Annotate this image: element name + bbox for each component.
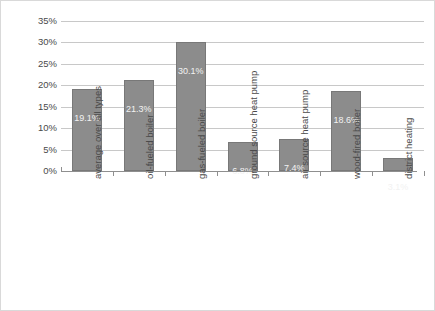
x-axis-tick: [320, 171, 321, 176]
x-axis-tick: [268, 171, 269, 176]
bar-value-label: 30.1%: [165, 66, 217, 76]
bar-value-label: 19.1%: [61, 113, 113, 123]
x-axis-category-label: district heating: [403, 118, 415, 179]
y-axis-tick-labels: 0%5%10%15%20%25%30%35%: [23, 1, 57, 311]
y-axis-tick-label: 35%: [25, 16, 57, 26]
bar-value-label: 18.6%: [320, 115, 372, 125]
y-axis-tick-label: 15%: [25, 102, 57, 112]
y-axis-tick-label: 0%: [25, 166, 57, 176]
x-axis-category-label: oil-fueled boiler: [144, 115, 156, 179]
x-axis-tick: [424, 171, 425, 176]
x-axis-tick: [217, 171, 218, 176]
bar-value-label: 21.3%: [113, 104, 165, 114]
y-axis-tick-label: 30%: [25, 37, 57, 47]
gridline: [61, 85, 424, 86]
y-axis-tick-label: 10%: [25, 123, 57, 133]
plot-area: 19.1%21.3%30.1%6.8%7.4%18.6%3.1%: [61, 21, 424, 171]
x-axis-category-label: wood-fired boiler: [351, 109, 363, 179]
x-axis-tick: [165, 171, 166, 176]
y-axis-tick-label: 5%: [25, 145, 57, 155]
bar-value-label: 3.1%: [372, 182, 424, 192]
gridline: [61, 128, 424, 129]
x-axis-category-label: gas-fueled boiler: [196, 109, 208, 179]
x-axis-category-label: air source heat pump: [299, 90, 311, 179]
gridline: [61, 64, 424, 65]
x-axis-line: [61, 171, 417, 172]
x-axis-category-label: ground source heat pump: [248, 71, 260, 179]
gridline: [61, 42, 424, 43]
x-axis-category-label: average over all types: [92, 86, 104, 179]
x-axis-tick: [372, 171, 373, 176]
x-axis-tick: [113, 171, 114, 176]
y-axis-tick-label: 25%: [25, 59, 57, 69]
bar-chart-figure: Percentage of heating system [%] 0%5%10%…: [0, 0, 435, 311]
y-axis-tick-label: 20%: [25, 80, 57, 90]
gridline: [61, 21, 424, 22]
